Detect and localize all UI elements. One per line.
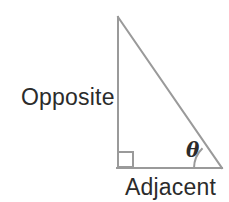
right-angle-marker-icon	[118, 152, 133, 167]
opposite-side-label: Opposite	[21, 86, 115, 109]
hypotenuse-line	[118, 17, 222, 168]
theta-angle-label: θ	[186, 140, 199, 160]
trigonometry-diagram: Opposite Adjacent θ	[0, 0, 229, 202]
adjacent-side-label: Adjacent	[125, 176, 216, 199]
